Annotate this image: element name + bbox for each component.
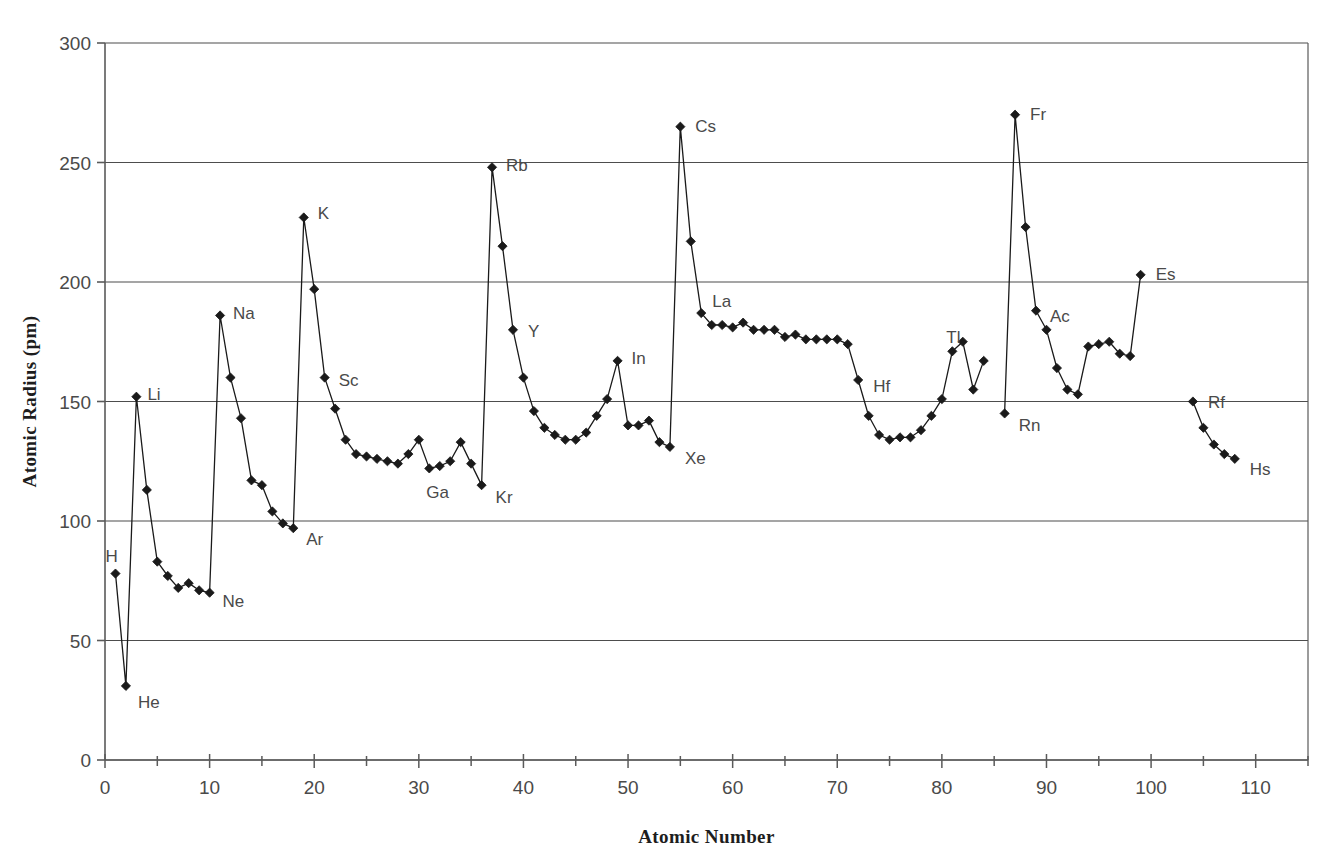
annotation-rf: Rf bbox=[1208, 393, 1225, 412]
data-point-marker bbox=[1042, 325, 1051, 334]
data-point-marker bbox=[623, 421, 632, 430]
data-point-marker bbox=[1063, 385, 1072, 394]
data-point-marker bbox=[508, 325, 517, 334]
y-tick-label: 0 bbox=[80, 750, 91, 771]
data-point-marker bbox=[226, 373, 235, 382]
annotation-ac: Ac bbox=[1050, 307, 1070, 326]
data-point-marker bbox=[142, 485, 151, 494]
data-point-marker bbox=[498, 242, 507, 251]
data-point-marker bbox=[456, 438, 465, 447]
atomic-radius-chart: 0501001502002503000102030405060708090100… bbox=[0, 0, 1334, 868]
data-point-marker bbox=[561, 435, 570, 444]
annotation-na: Na bbox=[233, 304, 255, 323]
data-point-marker bbox=[906, 433, 915, 442]
data-point-marker bbox=[603, 395, 612, 404]
annotation-rn: Rn bbox=[1019, 416, 1041, 435]
data-point-marker bbox=[362, 452, 371, 461]
data-point-marker bbox=[435, 461, 444, 470]
data-point-marker bbox=[132, 392, 141, 401]
annotation-fr: Fr bbox=[1030, 105, 1046, 124]
data-point-marker bbox=[289, 524, 298, 533]
x-tick-label: 110 bbox=[1241, 777, 1271, 798]
y-tick-label: 200 bbox=[59, 272, 91, 293]
data-point-marker bbox=[801, 335, 810, 344]
data-point-marker bbox=[854, 375, 863, 384]
data-point-marker bbox=[153, 557, 162, 566]
data-point-marker bbox=[372, 454, 381, 463]
chart-plot-svg: 0501001502002503000102030405060708090100… bbox=[0, 0, 1334, 868]
data-point-marker bbox=[195, 586, 204, 595]
data-point-marker bbox=[1031, 306, 1040, 315]
data-point-marker bbox=[1188, 397, 1197, 406]
data-point-marker bbox=[1021, 222, 1030, 231]
data-point-marker bbox=[665, 442, 674, 451]
x-tick-label: 60 bbox=[722, 777, 743, 798]
data-point-marker bbox=[236, 414, 245, 423]
annotation-la: La bbox=[712, 292, 731, 311]
data-point-marker bbox=[1199, 423, 1208, 432]
data-point-marker bbox=[676, 122, 685, 131]
data-point-marker bbox=[833, 335, 842, 344]
data-point-marker bbox=[885, 435, 894, 444]
series-atomic-radius bbox=[111, 110, 1240, 690]
data-point-marker bbox=[247, 476, 256, 485]
x-tick-label: 70 bbox=[827, 777, 848, 798]
data-point-marker bbox=[1230, 454, 1239, 463]
data-point-marker bbox=[864, 411, 873, 420]
data-point-marker bbox=[111, 569, 120, 578]
y-tick-label: 100 bbox=[59, 511, 91, 532]
data-point-marker bbox=[728, 323, 737, 332]
annotation-ga: Ga bbox=[426, 483, 449, 502]
annotation-h: H bbox=[105, 547, 117, 566]
data-point-marker bbox=[383, 457, 392, 466]
x-tick-label: 80 bbox=[931, 777, 952, 798]
data-point-marker bbox=[215, 311, 224, 320]
data-point-marker bbox=[644, 416, 653, 425]
data-point-marker bbox=[937, 395, 946, 404]
data-point-marker bbox=[613, 356, 622, 365]
x-tick-label: 50 bbox=[617, 777, 638, 798]
data-point-marker bbox=[351, 449, 360, 458]
annotation-es: Es bbox=[1156, 265, 1176, 284]
data-point-marker bbox=[550, 430, 559, 439]
data-point-marker bbox=[770, 325, 779, 334]
data-point-marker bbox=[875, 430, 884, 439]
series-line bbox=[116, 127, 984, 686]
annotation-cs: Cs bbox=[695, 117, 716, 136]
data-point-marker bbox=[582, 428, 591, 437]
data-point-marker bbox=[184, 579, 193, 588]
data-point-marker bbox=[686, 237, 695, 246]
data-point-marker bbox=[1126, 351, 1135, 360]
data-point-marker bbox=[487, 163, 496, 172]
data-point-marker bbox=[1000, 409, 1009, 418]
data-point-marker bbox=[310, 285, 319, 294]
annotation-tl: Tl bbox=[946, 328, 960, 347]
y-tick-label: 150 bbox=[59, 392, 91, 413]
data-point-marker bbox=[519, 373, 528, 382]
data-point-marker bbox=[843, 340, 852, 349]
x-axis-title: Atomic Number bbox=[638, 826, 775, 847]
data-point-marker bbox=[969, 385, 978, 394]
annotation-ne: Ne bbox=[223, 592, 245, 611]
data-point-marker bbox=[791, 330, 800, 339]
data-point-marker bbox=[822, 335, 831, 344]
data-point-marker bbox=[299, 213, 308, 222]
x-tick-label: 10 bbox=[199, 777, 220, 798]
annotation-xe: Xe bbox=[685, 449, 706, 468]
data-point-marker bbox=[446, 457, 455, 466]
data-point-marker bbox=[927, 411, 936, 420]
data-point-marker bbox=[571, 435, 580, 444]
data-point-marker bbox=[540, 423, 549, 432]
data-point-marker bbox=[1052, 363, 1061, 372]
data-point-marker bbox=[759, 325, 768, 334]
annotation-y: Y bbox=[528, 322, 539, 341]
y-tick-label: 250 bbox=[59, 153, 91, 174]
data-point-marker bbox=[979, 356, 988, 365]
data-point-marker bbox=[1094, 340, 1103, 349]
y-tick-label: 300 bbox=[59, 33, 91, 54]
data-point-marker bbox=[425, 464, 434, 473]
data-point-marker bbox=[812, 335, 821, 344]
annotation-rb: Rb bbox=[506, 156, 528, 175]
data-point-marker bbox=[634, 421, 643, 430]
data-point-marker bbox=[341, 435, 350, 444]
